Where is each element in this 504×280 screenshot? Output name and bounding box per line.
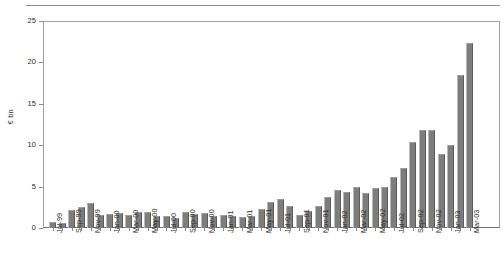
x-tick-mark	[384, 228, 385, 231]
y-tick-label: 15	[27, 99, 36, 108]
x-tick-mark	[460, 228, 461, 231]
x-tick-mark	[394, 228, 395, 231]
x-tick-mark	[309, 228, 310, 231]
x-tick-mark	[422, 228, 423, 231]
x-tick-mark	[176, 228, 177, 231]
y-axis-ticks: 0510152025	[0, 0, 43, 280]
bar	[466, 43, 473, 228]
x-tick-mark	[261, 228, 262, 231]
x-tick-mark	[347, 228, 348, 231]
x-tick-mark	[81, 228, 82, 231]
x-tick-mark	[470, 228, 471, 231]
y-tick-label: 25	[27, 16, 36, 25]
y-tick-label: 5	[32, 182, 36, 191]
x-tick-mark	[290, 228, 291, 231]
x-tick-mark	[53, 228, 54, 231]
x-tick-mark	[204, 228, 205, 231]
x-tick-mark	[271, 228, 272, 231]
x-tick-mark	[157, 228, 158, 231]
x-axis-ticks: Jul-99Sep-99Nov-99Jan-00Mar-00May-00Jul-…	[44, 228, 499, 280]
x-tick-mark	[337, 228, 338, 231]
x-tick-mark	[242, 228, 243, 231]
x-tick-mark	[318, 228, 319, 231]
bar	[457, 75, 464, 228]
x-tick-label: Mar-03	[472, 210, 481, 233]
y-tick-label: 20	[27, 57, 36, 66]
x-tick-mark	[62, 228, 63, 231]
x-tick-mark	[280, 228, 281, 231]
x-tick-mark	[119, 228, 120, 231]
x-tick-mark	[403, 228, 404, 231]
x-tick-mark	[110, 228, 111, 231]
x-tick-mark	[129, 228, 130, 231]
y-tick-mark	[39, 228, 43, 229]
x-tick-mark	[299, 228, 300, 231]
x-tick-mark	[413, 228, 414, 231]
x-tick-mark	[148, 228, 149, 231]
x-tick-mark	[166, 228, 167, 231]
x-tick-mark	[451, 228, 452, 231]
x-tick-mark	[195, 228, 196, 231]
x-tick-mark	[138, 228, 139, 231]
x-tick-mark	[328, 228, 329, 231]
x-tick-mark	[214, 228, 215, 231]
chart-figure: € bn 0510152025 Jul-99Sep-99Nov-99Jan-00…	[0, 0, 504, 280]
x-tick-mark	[375, 228, 376, 231]
x-tick-mark	[233, 228, 234, 231]
x-tick-mark	[100, 228, 101, 231]
x-tick-mark	[223, 228, 224, 231]
y-tick-label: 0	[32, 223, 36, 232]
y-tick-label: 10	[27, 140, 36, 149]
x-tick-mark	[356, 228, 357, 231]
x-tick-mark	[441, 228, 442, 231]
x-tick-mark	[72, 228, 73, 231]
x-tick-mark	[252, 228, 253, 231]
x-tick-mark	[91, 228, 92, 231]
bar-series	[44, 21, 499, 228]
top-divider-rule	[26, 5, 500, 6]
x-tick-mark	[185, 228, 186, 231]
x-tick-mark	[366, 228, 367, 231]
x-tick-mark	[432, 228, 433, 231]
